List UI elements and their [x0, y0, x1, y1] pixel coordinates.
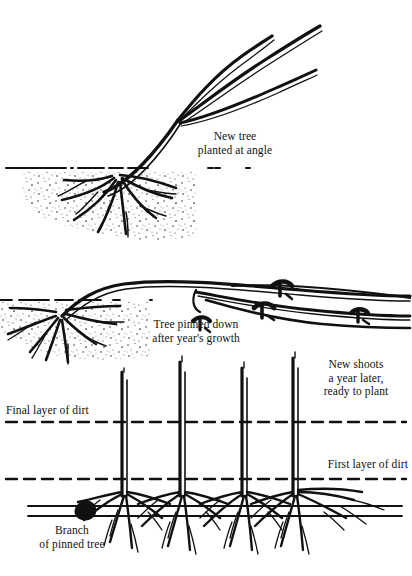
- pin-4: [351, 309, 369, 324]
- illustration-canvas: [0, 0, 412, 576]
- layering-propagation-figure: New tree planted at angle Tree pinned do…: [0, 0, 412, 576]
- shoot-2: [138, 356, 228, 554]
- caption-tree-pinned-down: Tree pinned down after year's growth: [132, 318, 260, 345]
- caption-new-shoots: New shoots a year later, ready to plant: [304, 358, 408, 399]
- caption-final-layer-of-dirt: Final layer of dirt: [6, 404, 136, 418]
- branch-upper-center: [179, 26, 320, 121]
- caption-first-layer-of-dirt: First layer of dirt: [282, 458, 408, 472]
- caption-branch-of-pinned-tree: Branch of pinned tree: [14, 524, 130, 551]
- caption-new-tree: New tree planted at angle: [176, 130, 294, 157]
- shoot-3: [200, 362, 290, 554]
- shoot-2-roots: [138, 492, 228, 550]
